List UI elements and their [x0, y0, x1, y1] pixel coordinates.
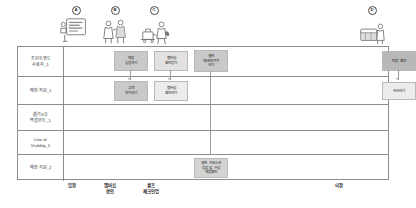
process-box-kiosk-maintenance[interactable]: 셀프 키오스크점검 및 수납재물확인: [194, 158, 228, 178]
row-body-frontend-user-1: 매장입장하기 멤버십확인받기 셀프체크인/아웃하기 퇴장 확인: [64, 47, 388, 76]
luggage-handling-illustration-icon: [135, 16, 173, 46]
stage-axis: 입장 멤버십확인 셀프체크인업 퇴장: [17, 182, 389, 206]
persona-marker-a-icon: A: [72, 6, 81, 15]
row-label-frontend-user-1: 프런트엔드사용자_1: [18, 47, 64, 76]
blueprint-row-line-of-visibility-1: Line ofVisibility_1: [18, 131, 388, 155]
reception-desk-illustration-icon: [353, 16, 391, 46]
row-body-backend-support-1: [64, 105, 388, 130]
persona-group-d: D: [352, 6, 392, 46]
stage-entry: 입장: [57, 183, 87, 189]
blueprint-row-store-staff-1: 매장 직원_1 고객맞이하기 멤버십확인하기 인사하기: [18, 77, 388, 105]
persona-group-c: C: [134, 6, 174, 46]
process-box-self-checkin[interactable]: 셀프체크인/아웃하기: [194, 50, 228, 72]
connector-col4-r1-r2: [398, 70, 399, 80]
process-box-exit-confirm[interactable]: 퇴장 확인: [382, 51, 416, 71]
row-label-store-support-2: 매장 지원_2: [18, 155, 64, 181]
persona-marker-b-icon: B: [111, 6, 120, 15]
persona-group-b: B: [95, 6, 135, 46]
row-label-backend-support-1: 眞기3오백샐한트_1: [18, 105, 64, 130]
blueprint-row-store-support-2: 매장 지원_2 셀프 키오스크점검 및 수납재물확인: [18, 155, 388, 181]
stage-self-checkin: 셀프체크인업: [135, 183, 167, 195]
row-label-line-of-visibility-1: Line ofVisibility_1: [18, 131, 64, 154]
persona-illustration-strip: A: [0, 0, 406, 46]
process-box-greet-customer[interactable]: 고객맞이하기: [114, 81, 148, 101]
connector-col4-arrow-icon: [396, 78, 398, 80]
row-body-store-staff-1: 고객맞이하기 멤버십확인하기 인사하기: [64, 77, 388, 104]
persona-marker-d-icon: D: [368, 6, 377, 15]
process-box-verify-membership[interactable]: 멤버십확인하기: [154, 81, 188, 101]
row-label-store-staff-1: 매장 직원_1: [18, 77, 64, 104]
blueprint-row-backend-support-1: 眞기3오백샐한트_1: [18, 105, 388, 131]
stage-exit: 퇴장: [324, 183, 354, 189]
blueprint-row-frontend-user-1: 프런트엔드사용자_1 매장입장하기 멤버십확인받기 셀프체크인/아웃하기 퇴장 …: [18, 47, 388, 77]
kiosk-screen-illustration-icon: [57, 16, 95, 46]
process-box-enter-store[interactable]: 매장입장하기: [114, 51, 148, 71]
persona-group-a: A: [56, 6, 96, 46]
process-box-say-goodbye[interactable]: 인사하기: [382, 82, 416, 100]
stage-membership-check: 멤버십확인: [95, 183, 125, 195]
row-body-store-support-2: 셀프 키오스크점검 및 수납재물확인: [64, 155, 388, 181]
process-box-membership-confirmed[interactable]: 멤버십확인받기: [154, 51, 188, 71]
blueprint-grid: 프런트엔드사용자_1 매장입장하기 멤버십확인받기 셀프체크인/아웃하기 퇴장 …: [17, 46, 389, 180]
staff-and-guest-illustration-icon: [96, 16, 134, 46]
row-body-line-of-visibility-1: [64, 131, 388, 154]
persona-marker-c-icon: C: [150, 6, 159, 15]
